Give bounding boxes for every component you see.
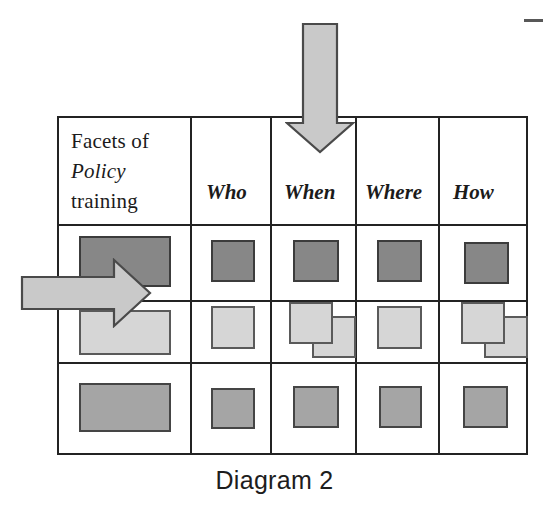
cell-shape-row2-when-front <box>289 302 333 344</box>
down-arrow-icon <box>285 22 355 154</box>
cell-shape-row3-where <box>379 386 422 428</box>
diagram-canvas: Facets of Policy training Who When Where… <box>0 0 549 513</box>
cell-shape-row3-facets <box>79 383 171 432</box>
row-divider-2 <box>59 362 526 364</box>
column-header-who: Who <box>206 180 247 205</box>
dash-mark-icon <box>524 19 543 22</box>
cell-shape-row3-who <box>211 388 255 429</box>
cell-shape-row1-when <box>293 240 339 282</box>
column-header-how: How <box>453 180 494 205</box>
cell-shape-row3-how <box>463 386 508 428</box>
cell-shape-row3-when <box>293 386 339 428</box>
column-header-when: When <box>284 180 335 205</box>
column-divider-2 <box>270 118 272 453</box>
corner-label-line1: Facets of <box>71 126 191 156</box>
figure-caption: Diagram 2 <box>0 466 549 495</box>
table-corner-label: Facets of Policy training <box>71 126 191 216</box>
right-arrow-icon <box>20 258 152 328</box>
row-divider-header <box>59 224 526 226</box>
corner-label-line2: Policy <box>71 156 191 186</box>
cell-shape-row2-who <box>211 306 255 349</box>
corner-label-line3: training <box>71 186 191 216</box>
cell-shape-row1-who <box>211 240 255 282</box>
cell-shape-row2-how-front <box>461 302 505 344</box>
cell-shape-row1-how <box>464 242 509 284</box>
cell-shape-row2-where <box>377 306 422 349</box>
column-divider-4 <box>438 118 440 453</box>
column-header-where: Where <box>365 180 422 205</box>
cell-shape-row1-where <box>377 240 422 282</box>
column-divider-3 <box>355 118 357 453</box>
